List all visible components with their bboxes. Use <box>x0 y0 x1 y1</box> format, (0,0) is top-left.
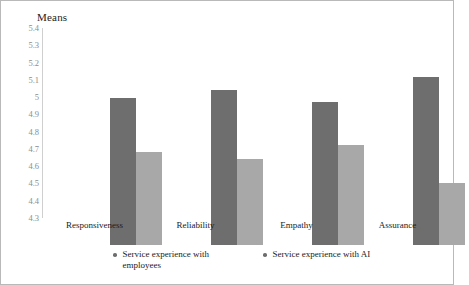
legend-label-line1: Service experience with AI <box>273 249 371 259</box>
y-tick-label: 5.1 <box>5 75 39 85</box>
category-label-assurance: Assurance <box>379 220 417 230</box>
y-tick-label: 5.4 <box>5 23 39 33</box>
plot-area <box>42 28 446 217</box>
y-tick-label: 4.4 <box>5 196 39 206</box>
bar-group <box>413 55 465 245</box>
bar-group <box>211 55 263 245</box>
y-tick-label: 4.8 <box>5 127 39 137</box>
y-tick-label: 5.3 <box>5 40 39 50</box>
y-tick-label: 4.3 <box>5 213 39 223</box>
y-tick-label: 4.9 <box>5 109 39 119</box>
x-axis-category-labels: ResponsivenessReliabilityEmpathyAssuranc… <box>42 220 446 236</box>
legend-item-service-experience-with-employees: Service experience with employees <box>113 249 243 271</box>
y-tick-label: 4.7 <box>5 144 39 154</box>
category-label-reliability: Reliability <box>177 220 215 230</box>
y-axis-tick-labels: 5.45.35.25.154.94.84.74.64.54.44.3 <box>1 1 39 285</box>
chart-legend: Service experience with employees Servic… <box>1 249 455 279</box>
y-tick-label: 5 <box>5 92 39 102</box>
legend-label-line1: Service experience with <box>123 249 209 259</box>
y-tick-label: 4.6 <box>5 161 39 171</box>
y-tick-label: 4.5 <box>5 178 39 188</box>
legend-item-label: Service experience with employees <box>123 249 223 271</box>
category-label-empathy: Empathy <box>280 220 313 230</box>
chart-title: Means <box>37 11 67 23</box>
dot-marker-icon <box>263 253 267 257</box>
bar-groups <box>83 55 469 245</box>
dot-marker-icon <box>113 253 117 257</box>
category-label-responsiveness: Responsiveness <box>66 220 123 230</box>
legend-item-service-experience-with-ai: Service experience with AI <box>263 249 443 260</box>
bar-group <box>312 55 364 245</box>
legend-label-line2: employees <box>123 260 162 270</box>
legend-item-label: Service experience with AI <box>273 249 371 260</box>
bar-group <box>110 55 162 245</box>
y-tick-label: 5.2 <box>5 58 39 68</box>
